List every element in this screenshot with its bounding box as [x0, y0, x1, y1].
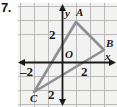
x-axis-tick-2: 2 [81, 65, 88, 78]
x-axis-label: x [105, 51, 111, 62]
x-axis-tick-negative-2: –2 [20, 65, 33, 78]
vertex-label-b: B [106, 38, 113, 49]
origin-label: O [65, 49, 73, 60]
y-axis-label: y [65, 8, 70, 19]
vertex-label-a: A [76, 7, 83, 18]
exercise-figure: 7. [0, 0, 117, 107]
problem-number: 7. [1, 1, 11, 14]
coordinate-graph: y x O 2 –2 2 2 A B C [18, 3, 117, 107]
vertex-label-c: C [30, 93, 37, 104]
y-axis-tick-negative-2: 2 [48, 88, 55, 101]
y-axis-tick-2: 2 [49, 28, 56, 41]
